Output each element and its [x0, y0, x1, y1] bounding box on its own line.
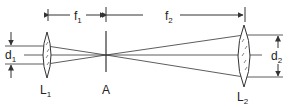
lens-l1-label: L1: [40, 83, 52, 99]
beam-expander-diagram: f1 f2 d1 L1 A: [0, 0, 289, 109]
lens-l2: [238, 25, 250, 87]
f1-label: f1: [74, 9, 82, 25]
d1-label: d1: [5, 48, 17, 64]
aperture-label: A: [102, 83, 110, 97]
d2-label: d2: [271, 49, 283, 65]
diagram-svg: f1 f2 d1 L1 A: [0, 0, 289, 109]
lens-l1: [43, 32, 51, 78]
f2-label: f2: [165, 9, 173, 25]
f2-dimension: [106, 7, 245, 22]
lens-l2-label: L2: [237, 90, 249, 106]
